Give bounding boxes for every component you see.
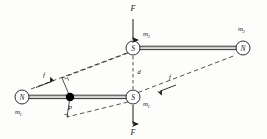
point-p-label: P: [67, 104, 73, 112]
dashed-force-line-right: [138, 55, 236, 93]
distance-d-label: d: [137, 68, 141, 76]
lower-right-m-subscript: 1: [148, 104, 150, 109]
force-f-down: F: [130, 105, 136, 137]
lower-right-pole-strength-label: m 1: [143, 100, 150, 109]
upper-left-m-subscript: 2: [148, 34, 151, 39]
lower-left-m-subscript: 1: [20, 112, 22, 117]
force-f-small-left-label: f: [43, 71, 46, 79]
dashed-line-lower-s-to-left: [67, 102, 128, 117]
force-f-small-right: f: [160, 73, 176, 91]
lower-north-pole: N: [15, 90, 29, 104]
force-f-small-left: f: [36, 71, 52, 88]
upper-south-pole: S: [126, 41, 140, 55]
force-f-down-label: F: [130, 128, 136, 137]
lower-south-pole: S: [126, 90, 140, 104]
lower-magnet-bar: [28, 95, 127, 98]
distance-d-line: d: [133, 56, 141, 89]
lower-north-pole-label: N: [18, 93, 25, 102]
dashed-line-upper-s-to-p: [62, 53, 128, 78]
upper-south-pole-label: S: [131, 44, 135, 53]
upper-north-pole: N: [236, 41, 250, 55]
force-f-small-right-label: f: [169, 73, 172, 81]
figure-svg: S N m 2 m 2 N S: [0, 0, 267, 139]
force-f-up: F: [130, 4, 136, 40]
point-p: P: [66, 93, 74, 112]
force-f-up-label: F: [130, 4, 136, 13]
upper-left-pole-strength-label: m 2: [143, 30, 151, 39]
lower-left-pole-strength-label: m 1: [15, 108, 22, 117]
lower-south-pole-label: S: [131, 93, 135, 102]
upper-north-pole-label: N: [239, 44, 246, 53]
magnet-couple-figure: S N m 2 m 2 N S: [0, 0, 267, 139]
upper-right-m-subscript: 2: [243, 29, 246, 34]
upper-magnet-bar: [139, 46, 237, 49]
upper-right-pole-strength-label: m 2: [238, 25, 246, 34]
